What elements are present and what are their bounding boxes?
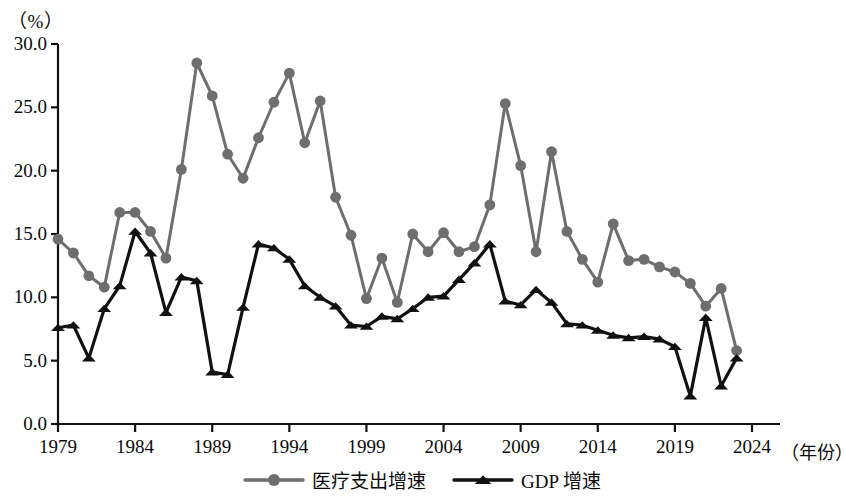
x-axis-tick-label: 2004 [412,437,476,456]
legend-item-gdp[interactable]: GDP 增速 [452,466,601,493]
x-axis-tick-label: 2014 [566,437,630,456]
x-axis-tick-label: 1979 [26,437,90,456]
x-axis-tick-label: 1989 [180,437,244,456]
legend-item-medical-expenditure[interactable]: 医疗支出增速 [243,466,426,493]
chart-canvas [0,0,844,497]
x-axis-tick-label: 2009 [489,437,553,456]
y-axis-tick-label: 20.0 [0,161,47,180]
x-axis-title: （年份） [781,438,844,464]
data-series [51,58,743,400]
y-axis-tick-label: 25.0 [0,97,47,116]
y-axis-tick-label: 15.0 [0,224,47,243]
x-axis-tick-label: 2019 [643,437,707,456]
y-axis-tick-label: 30.0 [0,34,47,53]
y-axis-tick-label: 5.0 [0,351,47,370]
x-axis-tick-label: 2024 [720,437,784,456]
x-axis-tick-label: 1999 [334,437,398,456]
triangle-marker-icon [452,470,514,490]
series-medical-expenditure [53,58,742,356]
legend-label: GDP 增速 [521,466,601,493]
x-axis-tick-label: 1994 [257,437,321,456]
x-axis-tick-label: 1984 [103,437,167,456]
series-gdp [51,227,743,399]
legend-label: 医疗支出增速 [312,466,426,493]
chart-legend: 医疗支出增速GDP 增速 [0,466,844,493]
y-axis-tick-label: 0.0 [0,414,47,433]
chart-figure: （%） 30.025.020.015.010.05.00.0 197919841… [0,0,844,497]
circle-marker-icon [243,470,305,490]
y-axis-tick-label: 10.0 [0,287,47,306]
